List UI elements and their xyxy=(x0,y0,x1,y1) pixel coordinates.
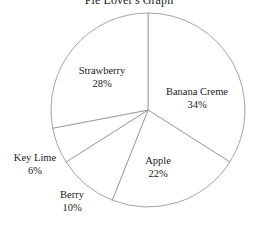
pie-chart-graphic xyxy=(0,0,258,230)
slice-value-strawberry: 28% xyxy=(59,78,145,91)
slice-value-apple: 22% xyxy=(128,168,188,181)
slice-label-strawberry: Strawberry 28% xyxy=(59,65,145,90)
slice-value-banana-creme: 34% xyxy=(150,99,244,112)
slice-name-strawberry: Strawberry xyxy=(59,65,145,78)
slice-label-apple: Apple 22% xyxy=(128,155,188,180)
slice-label-key-lime: Key Lime 6% xyxy=(2,152,68,177)
slice-name-apple: Apple xyxy=(128,155,188,168)
slice-label-berry: Berry 10% xyxy=(46,189,98,214)
slice-label-banana-creme: Banana Creme 34% xyxy=(150,86,244,111)
slice-value-berry: 10% xyxy=(46,202,98,215)
slice-name-key-lime: Key Lime xyxy=(2,152,68,165)
slice-name-berry: Berry xyxy=(46,189,98,202)
slice-name-banana-creme: Banana Creme xyxy=(150,86,244,99)
slice-value-key-lime: 6% xyxy=(2,165,68,178)
pie-chart-figure: Pie Lover's Graph Strawberry 28% Banana … xyxy=(0,0,258,230)
